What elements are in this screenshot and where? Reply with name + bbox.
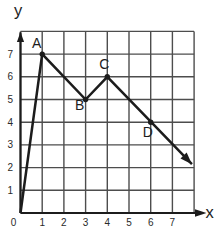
y-tick-label: 2 xyxy=(7,162,13,173)
x-tick-label: 1 xyxy=(39,217,45,228)
x-tick-label: 2 xyxy=(61,217,67,228)
y-tick-label: 7 xyxy=(7,49,13,60)
y-axis-label: y xyxy=(14,1,23,19)
graph-figure: 012345671234567 ABCD y x xyxy=(0,0,215,234)
y-tick-label: 6 xyxy=(7,71,13,82)
x-tick-label: 4 xyxy=(105,217,111,228)
x-tick-label: 7 xyxy=(170,217,176,228)
y-tick-label: 1 xyxy=(7,185,13,196)
point-dot-A xyxy=(40,51,45,56)
line-graph-svg: 012345671234567 ABCD y x xyxy=(0,0,215,234)
x-tick-label: 5 xyxy=(126,217,132,228)
axes xyxy=(17,32,207,217)
x-tick-label: 0 xyxy=(11,217,17,228)
point-label-C: C xyxy=(99,56,109,72)
y-axis-arrowhead xyxy=(17,32,24,42)
y-tick-label: 5 xyxy=(7,94,13,105)
point-label-D: D xyxy=(143,124,153,140)
point-dot-C xyxy=(105,74,110,79)
y-tick-label: 4 xyxy=(7,117,13,128)
x-tick-label: 6 xyxy=(148,217,154,228)
x-tick-label: 3 xyxy=(83,217,89,228)
x-axis-label: x xyxy=(205,203,214,221)
point-label-B: B xyxy=(75,97,84,113)
marked-points: ABCD xyxy=(32,35,153,140)
y-tick-label: 3 xyxy=(7,139,13,150)
point-label-A: A xyxy=(32,35,42,51)
